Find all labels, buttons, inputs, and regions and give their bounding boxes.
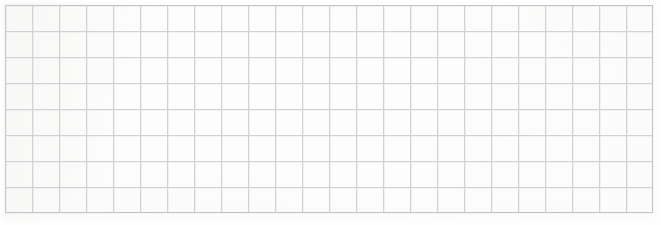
grid-lines — [5, 5, 653, 213]
scanned-grid-page — [0, 0, 661, 225]
grid-sheet — [5, 5, 653, 213]
